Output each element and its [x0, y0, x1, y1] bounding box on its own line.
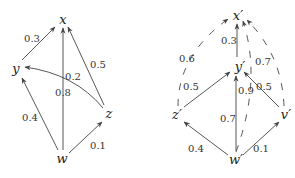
left-graph: x y z w 0.3 0.8 0.5 0.2 0.4 0.1	[11, 12, 112, 166]
node-x-prime: x′	[233, 8, 243, 23]
weight-wp-yp: 0.7	[220, 113, 236, 124]
weight-wp-vp: 0.1	[253, 143, 269, 154]
weight-w-x: 0.8	[55, 87, 71, 98]
node-z-prime: z′	[171, 107, 182, 122]
weight-vp-yp: 0.5	[256, 81, 272, 92]
diagram-canvas: x y z w 0.3 0.8 0.5 0.2 0.4 0.1 x′ y′ z′…	[0, 0, 295, 178]
weight-zp-xp: 0.6	[179, 53, 195, 64]
weight-vp-xp: 0.7	[255, 56, 271, 67]
node-w: w	[56, 151, 67, 166]
weight-wp-zp: 0.4	[188, 143, 204, 154]
weight-y-x: 0.3	[24, 33, 40, 44]
node-w-prime: w′	[229, 152, 243, 167]
node-v-prime: v′	[281, 107, 291, 122]
weight-yp-xp: 0.3	[221, 35, 237, 46]
weight-z-y: 0.2	[65, 71, 81, 82]
node-y-prime: y′	[234, 59, 245, 74]
node-x: x	[59, 12, 67, 27]
right-graph: x′ y′ z′ v′ w′ 0.3 0.5 0.7 0.5 0.4 0.1 0…	[171, 8, 291, 167]
weight-w-y: 0.4	[22, 112, 38, 123]
weight-z-x: 0.5	[90, 59, 106, 70]
weight-zp-yp: 0.5	[183, 81, 199, 92]
node-y: y	[11, 61, 20, 76]
node-z: z	[105, 106, 113, 121]
weight-wp-xp: 0.9	[238, 85, 254, 96]
weight-w-z: 0.1	[90, 140, 106, 151]
